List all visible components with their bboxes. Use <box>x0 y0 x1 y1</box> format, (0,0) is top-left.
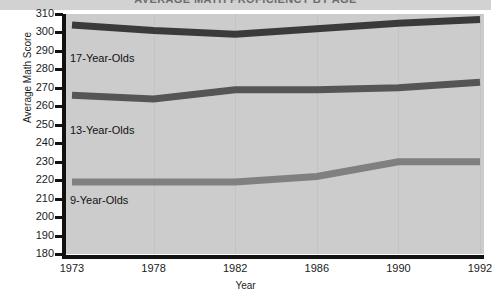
series-label: 17-Year-Olds <box>70 52 134 64</box>
y-tick-mark <box>55 87 63 90</box>
y-tick-label: 300 <box>20 26 54 37</box>
y-tick-mark <box>55 124 63 127</box>
x-tick-label: 1982 <box>205 262 265 274</box>
x-tick-label: 1992 <box>450 262 497 274</box>
y-tick-mark <box>55 142 63 145</box>
series-label: 9-Year-Olds <box>70 194 128 206</box>
y-tick-label: 310 <box>20 8 54 19</box>
y-tick-label: 180 <box>20 248 54 259</box>
y-tick-mark <box>55 161 63 164</box>
y-tick-mark <box>55 253 63 256</box>
y-tick-mark <box>55 105 63 108</box>
y-tick-mark <box>55 198 63 201</box>
y-tick-label: 210 <box>20 193 54 204</box>
y-tick-mark <box>55 68 63 71</box>
chart-title: AVERAGE MATH PROFICIENCY BY AGE <box>0 0 491 5</box>
x-tick-label: 1978 <box>124 262 184 274</box>
y-tick-mark <box>55 13 63 16</box>
y-tick-label: 240 <box>20 137 54 148</box>
x-tick-label: 1986 <box>287 262 347 274</box>
y-tick-mark <box>55 235 63 238</box>
y-tick-mark <box>55 31 63 34</box>
series-line <box>72 82 480 99</box>
x-tick-label: 1973 <box>42 262 102 274</box>
series-line <box>72 20 480 35</box>
y-tick-mark <box>55 179 63 182</box>
y-tick-label: 260 <box>20 100 54 111</box>
y-axis-ticks: 3103002902802702602502402302202102001901… <box>0 10 54 259</box>
x-axis-line <box>62 255 484 259</box>
series-label: 13-Year-Olds <box>70 124 134 136</box>
x-tick-label: 1990 <box>368 262 428 274</box>
y-tick-label: 250 <box>20 119 54 130</box>
y-tick-label: 280 <box>20 63 54 74</box>
series-line <box>72 162 480 182</box>
chart-title-strip: AVERAGE MATH PROFICIENCY BY AGE <box>0 0 491 10</box>
y-tick-label: 230 <box>20 156 54 167</box>
y-tick-mark <box>55 216 63 219</box>
y-tick-label: 190 <box>20 230 54 241</box>
x-axis-title: Year <box>0 280 491 291</box>
math-proficiency-line-chart: Average Math Score 310300290280270260250… <box>0 10 491 296</box>
y-tick-label: 200 <box>20 211 54 222</box>
y-tick-label: 290 <box>20 45 54 56</box>
y-tick-mark <box>55 50 63 53</box>
y-tick-label: 220 <box>20 174 54 185</box>
y-tick-label: 270 <box>20 82 54 93</box>
